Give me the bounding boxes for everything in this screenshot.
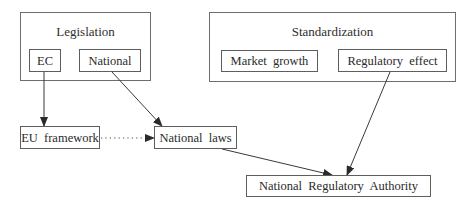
national-laws-node: National laws	[154, 126, 237, 149]
edge-national-laws-to-nra	[222, 149, 332, 175]
national-node: National	[79, 49, 141, 72]
legislation-group-title: Legislation	[21, 25, 150, 39]
eu-framework-node: EU framework	[20, 126, 100, 149]
regulatory-effect-node: Regulatory effect	[338, 49, 447, 72]
ec-node: EC	[29, 49, 61, 72]
market-growth-node: Market growth	[221, 50, 318, 72]
flow-diagram: Legislation Standardization EC National …	[0, 0, 471, 206]
national-regulatory-authority-node: National Regulatory Authority	[246, 175, 431, 197]
standardization-group-title: Standardization	[210, 25, 455, 39]
edge-regulatory-effect-to-nra	[347, 72, 390, 175]
